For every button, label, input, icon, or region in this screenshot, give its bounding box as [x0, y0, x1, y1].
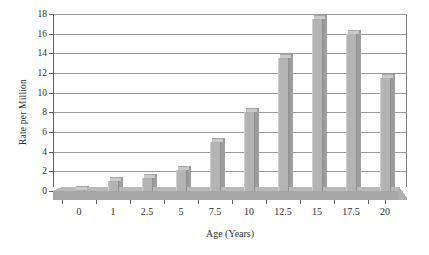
y-tick-label: 10 — [38, 88, 48, 98]
y-tick-label: 4 — [42, 147, 47, 157]
x-tick-mark — [334, 200, 335, 204]
bar-top-face — [280, 54, 291, 58]
x-axis-title: Age (Years) — [53, 228, 407, 239]
bar — [380, 78, 391, 191]
x-tick-label: 1 — [111, 206, 116, 217]
bar-front-face — [210, 142, 221, 191]
bar-side-face — [289, 54, 293, 187]
x-tick-mark — [198, 200, 199, 204]
x-tick-mark — [130, 200, 131, 204]
bar-top-face — [110, 177, 121, 181]
bar — [278, 58, 289, 191]
bar-front-face — [312, 19, 323, 191]
x-tick-label: 10 — [244, 206, 254, 217]
bar — [142, 178, 153, 191]
bar-top-face — [212, 138, 223, 142]
bar-front-face — [74, 190, 85, 191]
bar-front-face — [108, 181, 119, 191]
x-tick-mark — [62, 200, 63, 204]
bar — [244, 112, 255, 191]
bar — [108, 181, 119, 191]
bar-side-face — [323, 15, 327, 187]
x-tick-mark — [266, 200, 267, 204]
bar-front-face — [142, 178, 153, 191]
bar-top-face — [382, 74, 393, 78]
y-tick-label: 16 — [38, 29, 48, 39]
y-tick-label: 6 — [42, 127, 47, 137]
y-tick-label: 14 — [38, 48, 48, 58]
bar-side-face — [221, 138, 225, 187]
bar — [210, 142, 221, 191]
bar — [74, 190, 85, 191]
bar-top-face — [76, 186, 87, 190]
bar-front-face — [176, 170, 187, 191]
bar-front-face — [278, 58, 289, 191]
bar-top-face — [178, 166, 189, 170]
bar-front-face — [244, 112, 255, 191]
bar-side-face — [391, 74, 395, 187]
x-tick-label: 5 — [179, 206, 184, 217]
x-tick-mark — [232, 200, 233, 204]
x-tick-mark — [164, 200, 165, 204]
y-tick-label: 12 — [38, 68, 48, 78]
bar-front-face — [346, 34, 357, 191]
x-tick-label: 2.5 — [141, 206, 154, 217]
x-axis-ticks: 012.557.51012.51517.520 — [53, 200, 407, 230]
x-tick-label: 7.5 — [209, 206, 222, 217]
bar-top-face — [314, 15, 325, 19]
bar-chart-figure: Rate per Million 024681012141618 012.557… — [0, 0, 429, 255]
x-tick-label: 20 — [380, 206, 390, 217]
y-tick-label: 2 — [42, 166, 47, 176]
x-tick-mark — [300, 200, 301, 204]
x-tick-label: 12.5 — [274, 206, 292, 217]
x-tick-mark — [385, 200, 386, 204]
x-tick-label: 0 — [77, 206, 82, 217]
bar-top-face — [348, 30, 359, 34]
x-tick-label: 15 — [312, 206, 322, 217]
bar — [346, 34, 357, 191]
bar — [176, 170, 187, 191]
y-tick-label: 18 — [38, 9, 48, 19]
bar-series — [53, 14, 407, 200]
x-tick-mark — [368, 200, 369, 204]
x-tick-mark — [96, 200, 97, 204]
bar-top-face — [246, 108, 257, 112]
bar-side-face — [255, 108, 259, 187]
x-tick-label: 17.5 — [342, 206, 360, 217]
y-axis-title: Rate per Million — [18, 42, 28, 182]
y-tick-label: 0 — [42, 186, 47, 196]
bar-top-face — [144, 174, 155, 178]
bar-front-face — [380, 78, 391, 191]
plot-area: 024681012141618 — [53, 14, 407, 200]
bar — [312, 19, 323, 191]
y-tick-label: 8 — [42, 107, 47, 117]
bar-side-face — [357, 30, 361, 187]
